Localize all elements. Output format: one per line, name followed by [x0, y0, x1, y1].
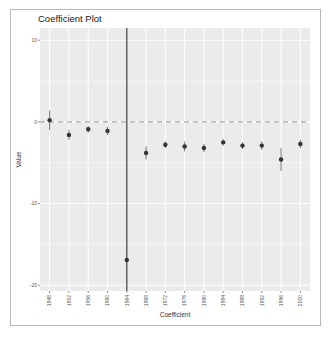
x-tick-label: 1948	[46, 295, 52, 306]
data-point	[86, 127, 90, 131]
data-point	[202, 146, 206, 150]
x-tick-label: 1960	[104, 295, 110, 306]
data-point	[67, 133, 71, 137]
x-tick-label: 1988	[239, 295, 245, 306]
coefficient-plot: Coefficient Plot 100-10-20 1948195219561…	[0, 0, 331, 337]
data-point	[47, 118, 51, 122]
x-tick-label: 1972	[162, 295, 168, 306]
data-point	[279, 157, 283, 161]
data-point	[298, 142, 302, 146]
x-tick-label: 1992	[259, 295, 265, 306]
data-point	[163, 143, 167, 147]
data-point	[182, 144, 186, 148]
plot-panel	[40, 28, 310, 291]
x-tick-label: 1952	[66, 295, 72, 306]
data-point	[240, 143, 244, 147]
y-axis: 100-10-20	[30, 37, 40, 288]
data-point	[105, 129, 109, 133]
x-tick-label: 2000	[297, 295, 303, 306]
chart-title: Coefficient Plot	[38, 13, 102, 24]
x-tick-label: 1976	[181, 295, 187, 306]
x-tick-label: 1984	[220, 295, 226, 306]
x-axis: 1948195219561960196419681972197619801984…	[46, 291, 303, 306]
y-tick-label: 0	[34, 119, 37, 125]
data-point	[221, 140, 225, 144]
x-tick-label: 1964	[124, 295, 130, 306]
data-point	[144, 151, 148, 155]
data-point	[125, 258, 129, 262]
data-point	[260, 143, 264, 147]
x-tick-label: 1968	[143, 295, 149, 306]
y-tick-label: -20	[30, 282, 37, 288]
x-tick-label: 1980	[201, 295, 207, 306]
y-tick-label: 10	[31, 37, 37, 43]
x-tick-label: 1996	[278, 295, 284, 306]
x-tick-label: 1956	[85, 295, 91, 306]
y-axis-label: Value	[15, 151, 22, 168]
y-tick-label: -10	[30, 200, 37, 206]
x-axis-label: Coefficient	[160, 311, 191, 318]
